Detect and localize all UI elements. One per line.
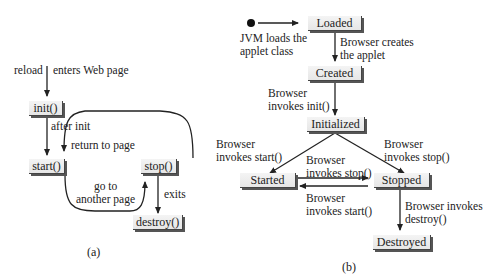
label-invokes-stop-right: Browser invokes stop() (384, 138, 449, 163)
label-browser-creates: Browser creates the applet (340, 36, 414, 61)
label-invokes-init: Browser invokes init() (268, 87, 330, 112)
label-exits: exits (164, 188, 186, 201)
state-destroy: destroy() (133, 215, 183, 230)
label-jvm-loads: JVM loads the applet class (240, 32, 307, 57)
start-dot (247, 19, 255, 27)
label-reload: reload (14, 64, 43, 77)
label-invokes-stop-mid: Browser invokes stop() (306, 154, 371, 179)
label-after-init: after init (51, 120, 90, 133)
state-loaded: Loaded (308, 16, 362, 31)
label-go-to-another-page: go to another page (76, 180, 135, 205)
caption-b: (b) (342, 260, 356, 275)
state-stopped: Stopped (374, 173, 430, 188)
label-invokes-start-mid: Browser invokes start() (306, 192, 372, 217)
label-enters-web-page: enters Web page (53, 64, 129, 77)
label-return-to-page: return to page (71, 139, 135, 152)
label-invokes-destroy: Browser invokes destroy() (405, 200, 483, 225)
state-init: init() (29, 101, 63, 116)
label-invokes-start-left: Browser invokes start() (216, 138, 282, 163)
state-start: start() (29, 159, 65, 174)
state-stop: stop() (141, 159, 177, 174)
caption-a: (a) (87, 245, 100, 260)
state-started: Started (240, 173, 296, 188)
state-created: Created (308, 66, 362, 81)
state-destroyed: Destroyed (373, 235, 431, 250)
state-initialized: Initialized (307, 117, 365, 132)
